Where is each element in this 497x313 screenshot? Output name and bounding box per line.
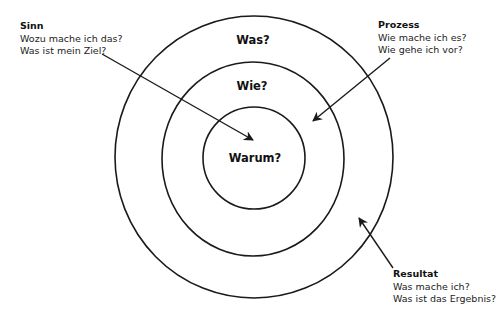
sinn-annotation: Sinn Wozu mache ich das? Was ist mein Zi…: [20, 20, 123, 58]
prozess-line-1: Wie mache ich es?: [378, 32, 467, 45]
sinn-arrow: [102, 54, 253, 140]
sinn-line-1: Wozu mache ich das?: [20, 33, 123, 46]
prozess-line-2: Wie gehe ich vor?: [378, 44, 467, 57]
sinn-line-2: Was ist mein Ziel?: [20, 45, 123, 58]
resultat-line-1: Was mache ich?: [393, 281, 496, 294]
prozess-arrow: [313, 58, 390, 121]
resultat-line-2: Was ist das Ergebnis?: [393, 293, 496, 306]
outer-ring-label: Was?: [236, 33, 270, 47]
resultat-title: Resultat: [393, 268, 496, 281]
middle-ring-label: Wie?: [236, 79, 267, 93]
resultat-annotation: Resultat Was mache ich? Was ist das Erge…: [393, 268, 496, 306]
prozess-title: Prozess: [378, 19, 467, 32]
sinn-title: Sinn: [20, 20, 123, 33]
inner-ring-label: Warum?: [229, 151, 282, 165]
prozess-annotation: Prozess Wie mache ich es? Wie gehe ich v…: [378, 19, 467, 57]
